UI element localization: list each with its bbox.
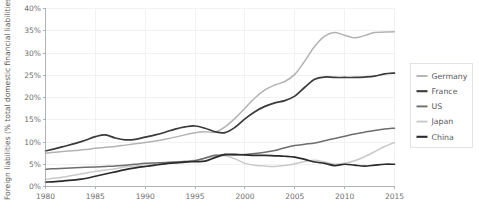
x-tick-label: 1985: [86, 192, 105, 201]
series-line-germany: [46, 32, 395, 153]
y-tick-label: 15%: [24, 115, 41, 124]
gridlines: [46, 9, 395, 187]
x-tick-label: 2015: [385, 192, 404, 201]
x-axis-ticks: 19801985199019952000200520102015: [36, 187, 404, 201]
x-tick-label: 2005: [285, 192, 304, 201]
x-tick-label: 1990: [136, 192, 155, 201]
x-tick-label: 1980: [36, 192, 55, 201]
y-axis-title: Foreign liabilities (% total domestic fi…: [3, 0, 12, 200]
legend-label: Japan: [431, 117, 454, 126]
y-tick-label: 30%: [24, 49, 41, 58]
series-line-china: [46, 154, 395, 182]
chart-svg: 0%5%10%15%20%25%30%35%40%198019851990199…: [0, 0, 479, 211]
y-tick-label: 5%: [29, 160, 41, 169]
y-axis-ticks: 0%5%10%15%20%25%30%35%40%: [24, 4, 45, 191]
legend-label: France: [432, 87, 458, 96]
y-tick-label: 35%: [24, 26, 41, 35]
line-chart: 0%5%10%15%20%25%30%35%40%198019851990199…: [0, 0, 479, 211]
y-tick-label: 40%: [24, 4, 41, 13]
x-tick-label: 2000: [235, 192, 254, 201]
y-tick-label: 20%: [24, 93, 41, 102]
y-tick-label: 0%: [29, 182, 41, 191]
x-tick-label: 2010: [335, 192, 354, 201]
legend-label: US: [432, 102, 443, 111]
y-tick-label: 10%: [24, 138, 41, 147]
series-line-france: [46, 73, 395, 151]
legend-label: China: [432, 133, 454, 142]
series-group: [46, 32, 395, 182]
legend-label: Germany: [432, 72, 468, 81]
y-tick-label: 25%: [24, 71, 41, 80]
legend: GermanyFranceUSJapanChina: [411, 64, 473, 148]
x-tick-label: 1995: [186, 192, 205, 201]
